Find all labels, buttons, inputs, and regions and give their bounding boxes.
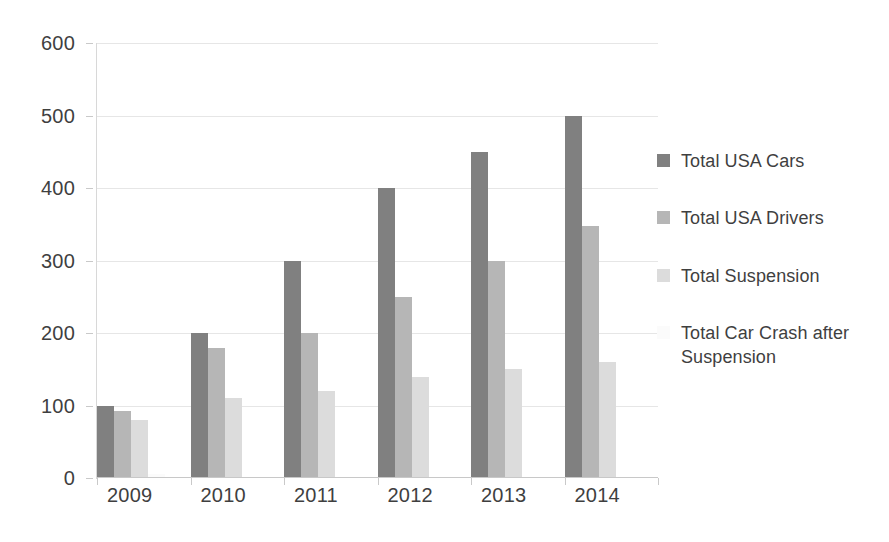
bar[interactable] (412, 377, 429, 479)
y-tick-mark (86, 478, 93, 479)
bar-slot (429, 43, 446, 478)
bar-slot (505, 43, 522, 478)
bar-slot (97, 43, 114, 478)
y-tick-label: 600 (41, 32, 75, 55)
bar-group (191, 43, 285, 478)
bar-slot (599, 43, 616, 478)
bar-slot (284, 43, 301, 478)
bar-group (378, 43, 472, 478)
bar[interactable] (395, 297, 412, 478)
bar[interactable] (378, 188, 395, 478)
y-tick-mark (86, 406, 93, 407)
bar[interactable] (599, 362, 616, 478)
bar-slot (335, 43, 352, 478)
bar-slot (395, 43, 412, 478)
bar-slot (148, 43, 165, 478)
legend-swatch-icon (657, 211, 670, 224)
bar-slot (488, 43, 505, 478)
x-tick-mark (658, 478, 659, 485)
bar-group (471, 43, 565, 478)
legend-label: Total Car Crash after Suspension (681, 322, 871, 369)
bar-slot (522, 43, 539, 478)
bar[interactable] (505, 369, 522, 478)
x-tick-label: 2013 (471, 484, 565, 524)
y-tick-label: 500 (41, 104, 75, 127)
bar-slot (191, 43, 208, 478)
bar-slot (225, 43, 242, 478)
legend-item[interactable]: Total Car Crash after Suspension (657, 322, 887, 369)
y-tick-mark (86, 333, 93, 334)
y-tick-mark (86, 188, 93, 189)
chart-legend: Total USA CarsTotal USA DriversTotal Sus… (657, 150, 887, 403)
y-tick-label: 300 (41, 249, 75, 272)
bar-slot (565, 43, 582, 478)
bar-group (565, 43, 659, 478)
y-tick-mark (86, 43, 93, 44)
x-tick-label: 2009 (97, 484, 191, 524)
bar[interactable] (97, 406, 114, 479)
bar-groups (97, 43, 658, 478)
x-tick-label: 2011 (284, 484, 378, 524)
bar-group (97, 43, 191, 478)
bar-chart: 0100200300400500600 20092010201120122013… (0, 0, 889, 542)
bar-slot (318, 43, 335, 478)
bar[interactable] (284, 261, 301, 479)
bar-slot (378, 43, 395, 478)
bar[interactable] (225, 398, 242, 478)
y-tick-mark (86, 261, 93, 262)
x-tick-label: 2014 (565, 484, 659, 524)
bar[interactable] (191, 333, 208, 478)
x-tick-label: 2010 (191, 484, 285, 524)
bar-slot (114, 43, 131, 478)
bar[interactable] (131, 420, 148, 478)
bar-slot (131, 43, 148, 478)
legend-item[interactable]: Total USA Drivers (657, 207, 887, 230)
bar[interactable] (471, 152, 488, 478)
legend-item[interactable]: Total Suspension (657, 265, 887, 288)
bar-slot (208, 43, 225, 478)
y-tick-mark (86, 116, 93, 117)
bar-group (284, 43, 378, 478)
legend-label: Total USA Cars (681, 150, 804, 173)
legend-label: Total USA Drivers (681, 207, 824, 230)
legend-swatch-icon (657, 269, 670, 282)
plot-area (97, 43, 658, 478)
legend-label: Total Suspension (681, 265, 820, 288)
bar-slot (582, 43, 599, 478)
legend-swatch-icon (657, 326, 670, 339)
bar[interactable] (582, 226, 599, 478)
x-tick-label: 2012 (378, 484, 472, 524)
x-axis-labels: 200920102011201220132014 (97, 484, 658, 524)
y-axis-labels: 0100200300400500600 (0, 0, 97, 542)
y-tick-label: 400 (41, 177, 75, 200)
legend-item[interactable]: Total USA Cars (657, 150, 887, 173)
bar-slot (412, 43, 429, 478)
y-tick-label: 200 (41, 322, 75, 345)
y-tick-label: 100 (41, 394, 75, 417)
bar[interactable] (565, 116, 582, 479)
bar[interactable] (114, 411, 131, 478)
y-tick-label: 0 (64, 467, 75, 490)
bar-slot (616, 43, 633, 478)
bar[interactable] (488, 261, 505, 479)
bar[interactable] (301, 333, 318, 478)
legend-swatch-icon (657, 154, 670, 167)
bar[interactable] (318, 391, 335, 478)
bar-slot (301, 43, 318, 478)
bar-slot (242, 43, 259, 478)
bar-slot (471, 43, 488, 478)
bar[interactable] (208, 348, 225, 479)
